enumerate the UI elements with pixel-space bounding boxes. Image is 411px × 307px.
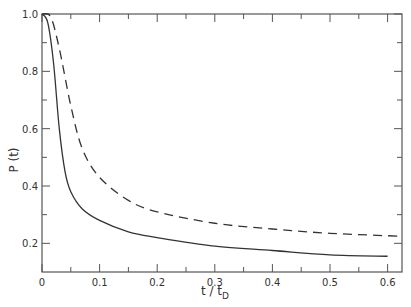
x-tick-label: 0.2 xyxy=(149,277,165,288)
y-tick-label: 0.2 xyxy=(22,238,38,249)
axis-ticks xyxy=(42,14,402,272)
data-curves xyxy=(42,13,399,256)
x-tick-label: 0.6 xyxy=(380,277,396,288)
solid-curve xyxy=(42,14,388,256)
y-tick-label: 0.8 xyxy=(22,66,38,77)
plot-frame xyxy=(42,14,402,272)
tick-labels: 00.10.20.30.40.50.60.20.40.60.81.0 xyxy=(22,9,395,288)
dashed-curve xyxy=(42,13,399,236)
chart: 00.10.20.30.40.50.60.20.40.60.81.0 P (t)… xyxy=(0,0,411,307)
x-tick-label: 0 xyxy=(39,277,45,288)
x-tick-label: 0.5 xyxy=(322,277,338,288)
x-tick-label: 0.4 xyxy=(264,277,280,288)
y-tick-label: 1.0 xyxy=(22,9,38,20)
x-axis-label: t / tD xyxy=(201,284,229,301)
x-tick-label: 0.1 xyxy=(92,277,108,288)
y-tick-label: 0.6 xyxy=(22,124,38,135)
y-tick-label: 0.4 xyxy=(22,181,38,192)
y-axis-label: P (t) xyxy=(7,147,21,172)
